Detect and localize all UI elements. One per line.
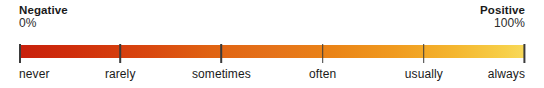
color-scale-bar: [19, 45, 525, 58]
negative-endpoint: Negative 0%: [19, 4, 68, 30]
tick-mark-always: [523, 44, 525, 63]
negative-endpoint-value: 0%: [19, 17, 68, 30]
gradient-fill: [19, 45, 525, 58]
tick-mark-often: [322, 44, 324, 63]
tick-label-usually: usually: [405, 66, 443, 82]
tick-label-often: often: [309, 66, 336, 82]
tick-label-sometimes: sometimes: [192, 66, 251, 82]
tick-mark-rarely: [119, 44, 121, 63]
tick-mark-never: [19, 44, 21, 63]
tick-label-always: always: [488, 66, 525, 82]
tick-label-never: never: [19, 66, 50, 82]
positive-endpoint-value: 100%: [480, 17, 525, 30]
tick-label-group: neverrarelysometimesoftenusuallyalways: [19, 66, 525, 82]
positive-endpoint: Positive 100%: [480, 4, 525, 30]
tick-mark-usually: [423, 44, 425, 63]
tick-label-rarely: rarely: [105, 66, 136, 82]
frequency-scale-legend: Negative 0% Positive 100% neverrarelysom…: [0, 0, 544, 88]
tick-mark-sometimes: [221, 44, 223, 63]
